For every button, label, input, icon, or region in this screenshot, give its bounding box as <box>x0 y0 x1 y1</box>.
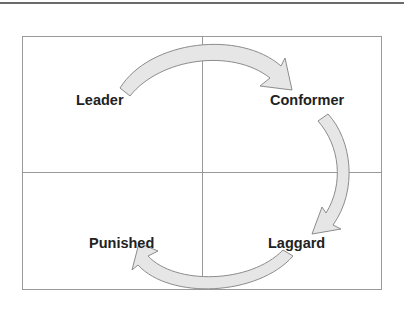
quadrant-label-punished: Punished <box>89 236 154 251</box>
quadrant-label-laggard: Laggard <box>268 236 325 251</box>
quadrant-label-conformer: Conformer <box>270 93 344 108</box>
cycle-arrows <box>0 0 404 332</box>
arrow-conformer-to-laggard <box>312 114 349 234</box>
arrow-leader-to-conformer <box>120 44 292 96</box>
quadrant-label-leader: Leader <box>76 93 124 108</box>
